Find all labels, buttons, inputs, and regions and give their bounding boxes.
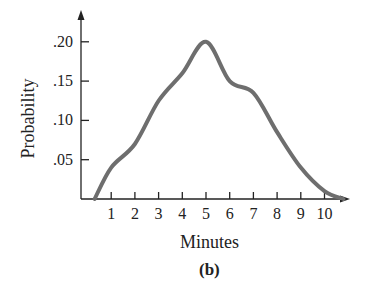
y-ticks: .05.10.15.20 <box>53 33 89 168</box>
x-tick-label: 5 <box>202 205 210 222</box>
x-tick-label: 8 <box>273 205 281 222</box>
y-tick-label: .10 <box>53 111 73 128</box>
chart-plot: 12345678910 .05.10.15.20 <box>0 0 392 304</box>
x-axis-label: Minutes <box>180 232 239 253</box>
y-axis-label: Probability <box>18 69 39 169</box>
x-tick-label: 2 <box>131 205 139 222</box>
y-axis-arrow-icon <box>78 10 85 20</box>
x-tick-label: 4 <box>178 205 186 222</box>
y-tick-label: .15 <box>53 72 73 89</box>
x-ticks: 12345678910 <box>107 192 332 222</box>
probability-curve <box>95 42 344 199</box>
x-tick-label: 6 <box>226 205 234 222</box>
x-tick-label: 7 <box>249 205 257 222</box>
figure-caption: (b) <box>199 260 220 280</box>
y-tick-label: .20 <box>53 33 73 50</box>
x-tick-label: 1 <box>107 205 115 222</box>
x-tick-label: 9 <box>297 205 305 222</box>
y-tick-label: .05 <box>53 151 73 168</box>
x-tick-label: 10 <box>317 205 333 222</box>
x-tick-label: 3 <box>155 205 163 222</box>
